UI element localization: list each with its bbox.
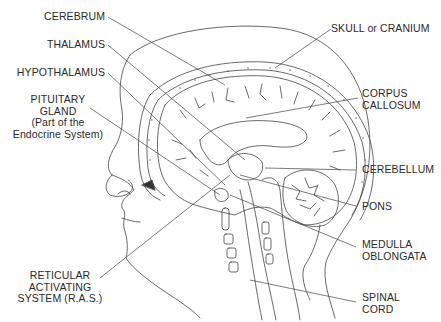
leader-thalamus (108, 45, 245, 160)
label-text: CALLOSUM (362, 100, 421, 112)
label-text: OBLONGATA (362, 251, 427, 263)
label-text: RETICULAR (14, 270, 106, 282)
label-text: CEREBELLUM (362, 164, 434, 176)
label-reticular-activating-system: RETICULAR ACTIVATING SYSTEM (R.A.S.) (14, 270, 106, 305)
corpus-callosum (200, 121, 307, 165)
leader-pons (240, 175, 356, 206)
label-skull: SKULL or CRANIUM (331, 23, 430, 35)
label-spinal-cord: SPINAL CORD (362, 292, 400, 315)
leader-pituitary (90, 108, 220, 195)
label-text: CORPUS (362, 88, 421, 100)
label-text: (Part of the (10, 117, 106, 129)
label-text: THALAMUS (47, 39, 105, 51)
label-text: PITUITARY (10, 94, 106, 106)
label-hypothalamus: HYPOTHALAMUS (17, 67, 105, 79)
label-text: SYSTEM (R.A.S.) (14, 293, 106, 305)
leader-ras (100, 175, 230, 278)
label-thalamus: THALAMUS (47, 39, 105, 51)
label-medulla-oblongata: MEDULLA OBLONGATA (362, 239, 427, 262)
leader-spinal (250, 280, 356, 302)
label-text: CORD (362, 304, 400, 316)
label-cerebellum: CEREBELLUM (362, 164, 434, 176)
label-text: HYPOTHALAMUS (17, 67, 105, 79)
leader-cerebrum (108, 17, 225, 85)
label-text: MEDULLA (362, 239, 427, 251)
label-text: SKULL or CRANIUM (331, 23, 430, 35)
leader-skull (275, 29, 331, 68)
leader-corpus (246, 98, 358, 118)
vertebra (222, 208, 229, 230)
label-text: Endocrine System) (10, 129, 106, 141)
cerebrum-outline (157, 76, 356, 225)
label-text: SPINAL (362, 292, 400, 304)
label-text: CEREBRUM (44, 11, 105, 23)
label-corpus-callosum: CORPUS CALLOSUM (362, 88, 421, 111)
thalamus (228, 153, 263, 180)
skull-inner (158, 70, 365, 215)
brainstem (262, 178, 300, 320)
leader-hypothalamus (108, 73, 225, 185)
label-cerebrum: CEREBRUM (44, 11, 105, 23)
leader-medulla (230, 195, 356, 247)
pituitary (215, 188, 228, 201)
label-pituitary-gland: PITUITARY GLAND (Part of the Endocrine S… (10, 94, 106, 140)
label-pons: PONS (362, 201, 392, 213)
label-text: PONS (362, 201, 392, 213)
